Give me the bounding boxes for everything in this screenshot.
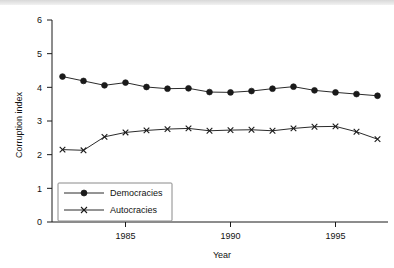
- corruption-index-line-chart: Corruption index Year 0123456 1985199019…: [0, 0, 394, 268]
- y-tick-label: 4: [37, 83, 42, 93]
- series-layer: [60, 74, 381, 153]
- x-axis-ticks: 198519901995: [115, 222, 345, 241]
- legend-label-autocracies: Autocracies: [110, 205, 158, 215]
- series-line-democracies: [63, 77, 378, 96]
- data-point-marker: [375, 136, 381, 142]
- x-axis-title: Year: [213, 250, 231, 260]
- series-autocracies: [60, 124, 381, 154]
- y-tick-label: 1: [37, 184, 42, 194]
- data-point-marker: [207, 89, 213, 95]
- legend-marker-circle: [81, 190, 87, 196]
- y-tick-label: 3: [37, 116, 42, 126]
- x-tick-label: 1995: [325, 231, 345, 241]
- x-tick-label: 1985: [115, 231, 135, 241]
- data-point-marker: [186, 85, 192, 91]
- data-point-marker: [165, 86, 171, 92]
- data-point-marker: [270, 86, 276, 92]
- y-tick-label: 5: [37, 49, 42, 59]
- data-point-marker: [123, 80, 129, 86]
- data-point-marker: [312, 87, 318, 93]
- series-line-autocracies: [63, 126, 378, 150]
- data-point-marker: [249, 88, 255, 94]
- data-point-marker: [102, 82, 108, 88]
- data-point-marker: [81, 78, 87, 84]
- data-point-marker: [291, 84, 297, 90]
- data-point-marker: [333, 89, 339, 95]
- data-point-marker: [375, 93, 381, 99]
- legend-label-democracies: Democracies: [110, 188, 163, 198]
- data-point-marker: [60, 74, 66, 80]
- data-point-marker: [144, 84, 150, 90]
- series-democracies: [60, 74, 381, 99]
- y-tick-label: 6: [37, 15, 42, 25]
- y-tick-label: 2: [37, 150, 42, 160]
- chart-legend: Democracies Autocracies: [58, 183, 172, 221]
- y-axis-ticks: 0123456: [37, 15, 52, 227]
- data-point-marker: [228, 89, 234, 95]
- data-point-marker: [354, 91, 360, 97]
- y-tick-label: 0: [37, 217, 42, 227]
- x-tick-label: 1990: [220, 231, 240, 241]
- chart-figure: Corruption index Year 0123456 1985199019…: [0, 0, 394, 268]
- y-axis-title: Corruption index: [14, 91, 24, 158]
